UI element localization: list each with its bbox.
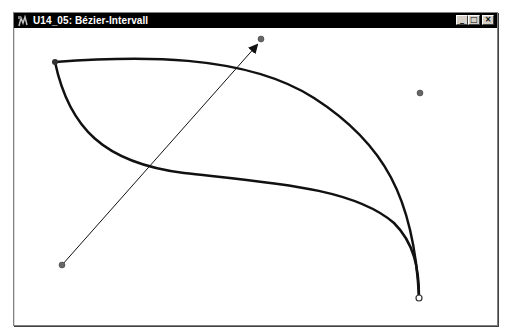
window-title: U14_05: Bézier-Intervall — [33, 15, 148, 26]
tangent-arrow — [62, 45, 257, 265]
start-point[interactable] — [52, 59, 58, 65]
app-icon[interactable] — [17, 15, 29, 27]
minimize-icon: _ — [460, 16, 464, 24]
close-icon: × — [485, 16, 492, 24]
maximize-button[interactable]: □ — [468, 15, 480, 25]
minimize-button[interactable]: _ — [456, 15, 468, 25]
control-point-3[interactable] — [59, 262, 65, 268]
bezier-curve-lower — [55, 62, 419, 297]
app-window: U14_05: Bézier-Intervall _ □ × — [13, 12, 498, 326]
control-point-2[interactable] — [417, 90, 423, 96]
control-point-1[interactable] — [258, 36, 264, 42]
title-bar[interactable]: U14_05: Bézier-Intervall _ □ × — [14, 13, 497, 28]
close-button[interactable]: × — [482, 15, 494, 25]
drawing-canvas[interactable] — [14, 28, 497, 325]
end-point[interactable] — [416, 295, 422, 301]
window-controls: _ □ × — [456, 15, 494, 25]
maximize-icon: □ — [470, 16, 478, 24]
